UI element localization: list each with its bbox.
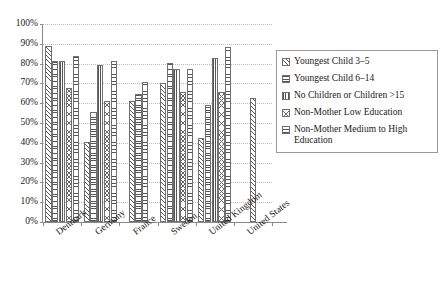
bar <box>73 56 79 222</box>
bar <box>167 63 173 222</box>
x-axis-tick-mark <box>119 222 120 226</box>
swatch-horizontal-fine-icon <box>282 75 290 83</box>
y-axis-tick-label: 50% <box>0 118 38 127</box>
legend-item-label: No Children or Children >15 <box>294 90 404 101</box>
legend-item-label: Non-Mother Medium to High Education <box>294 124 433 146</box>
bar <box>66 88 72 222</box>
legend-item: Youngest Child 6–14 <box>282 73 433 84</box>
bar <box>59 61 65 222</box>
bar-group <box>198 24 231 222</box>
legend-item: No Children or Children >15 <box>282 90 433 101</box>
bar <box>142 82 148 222</box>
bar <box>90 112 96 222</box>
x-axis-tick-mark <box>234 222 235 226</box>
bar <box>173 69 179 222</box>
y-axis-tick-label: 0% <box>0 217 38 226</box>
bar <box>218 92 224 222</box>
bar-group <box>160 24 193 222</box>
bar <box>212 58 218 222</box>
legend-item: Non-Mother Medium to High Education <box>282 124 433 146</box>
legend-item-label: Non-Mother Low Education <box>294 107 402 118</box>
bar <box>225 47 231 222</box>
legend-item: Youngest Child 3–5 <box>282 56 433 67</box>
bar <box>111 61 117 222</box>
y-axis: 100%90%80%70%60%50%40%30%20%10%0% <box>0 24 40 222</box>
bar <box>187 69 193 222</box>
x-axis-tick-mark <box>272 222 273 226</box>
bar <box>45 46 51 222</box>
legend-item-label: Youngest Child 6–14 <box>294 73 374 84</box>
bar-group <box>45 24 78 222</box>
y-axis-tick-label: 20% <box>0 177 38 186</box>
legend-item: Non-Mother Low Education <box>282 107 433 118</box>
swatch-horizontal-wide-icon <box>282 126 290 134</box>
chart-legend: Youngest Child 3–5Youngest Child 6–14No … <box>276 50 438 153</box>
x-axis-tick-mark <box>81 222 82 226</box>
y-axis-tick-label: 40% <box>0 138 38 147</box>
bar-group <box>84 24 117 222</box>
bar <box>135 94 141 222</box>
x-axis-tick-mark <box>43 222 44 226</box>
legend-item-label: Youngest Child 3–5 <box>294 56 370 67</box>
y-axis-tick-label: 100% <box>0 19 38 28</box>
y-axis-tick-label: 10% <box>0 197 38 206</box>
swatch-crosshatch-icon <box>282 109 290 117</box>
y-axis-tick-label: 70% <box>0 78 38 87</box>
bar <box>52 61 58 222</box>
y-axis-tick-label: 90% <box>0 39 38 48</box>
bar <box>129 101 135 222</box>
swatch-diagonal-hatch-icon <box>282 58 290 66</box>
bar <box>198 138 204 222</box>
bar <box>205 105 211 222</box>
bar-chart: 100%90%80%70%60%50%40%30%20%10%0% Denmar… <box>0 0 443 298</box>
y-axis-tick-label: 30% <box>0 158 38 167</box>
bar-group <box>129 24 149 222</box>
y-axis-tick-label: 60% <box>0 98 38 107</box>
y-axis-tick-label: 80% <box>0 59 38 68</box>
swatch-vertical-lines-icon <box>282 92 290 100</box>
bar <box>180 92 186 222</box>
plot-area <box>43 24 272 222</box>
bar <box>104 101 110 222</box>
x-axis-tick-mark <box>158 222 159 226</box>
bar <box>160 83 166 222</box>
bar <box>97 65 103 222</box>
x-axis-tick-mark <box>196 222 197 226</box>
